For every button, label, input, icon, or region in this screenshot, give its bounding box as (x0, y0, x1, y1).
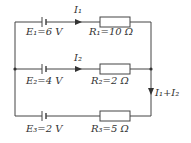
circuit-svg (0, 0, 191, 143)
resistor-r2 (100, 64, 130, 74)
resistor-r2-label: R₂=2 Ω (91, 76, 129, 86)
current-i2-label: I₂ (74, 53, 82, 63)
emf-e3-label: E₃=2 V (26, 124, 62, 134)
resistor-r3 (100, 111, 130, 121)
emf-e2-label: E₂=4 V (26, 76, 62, 86)
arrow-i1-icon (75, 19, 82, 25)
current-i1-label: I₁ (74, 5, 82, 15)
junction-right (149, 67, 152, 70)
junction-left (13, 67, 16, 70)
resistor-r1-label: R₁=10 Ω (89, 27, 133, 37)
emf-e1-label: E₁=6 V (26, 27, 62, 37)
arrow-i2-icon (75, 66, 82, 72)
current-sum-label: I₁+I₂ (155, 88, 179, 98)
arrow-i1-plus-i2-icon (148, 88, 154, 95)
resistor-r3-label: R₃=5 Ω (91, 124, 129, 134)
